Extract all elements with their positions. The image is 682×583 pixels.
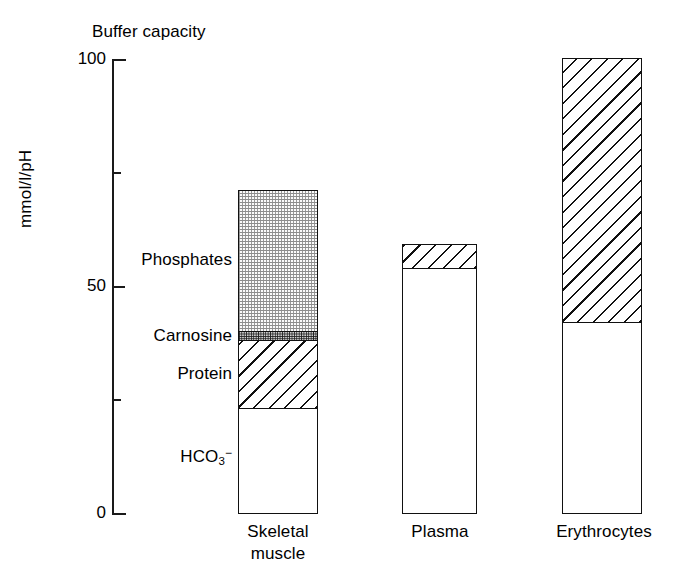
annotation-bicarbonate-formula: HCO [180, 447, 218, 466]
annotation-bicarbonate: HCO3− [116, 446, 232, 467]
bar-segment-protein-erythrocytes [562, 58, 642, 323]
bar-segment-phosphates-skeletal-muscle [238, 190, 318, 332]
buffer-capacity-chart: Buffer capacity mmol/l/pH 100 50 0 Phosp [0, 0, 682, 583]
y-tick-label-100: 100 [36, 49, 106, 69]
category-label-skeletal-muscle: Skeletal muscle [218, 521, 338, 565]
chart-title: Buffer capacity [92, 22, 206, 42]
y-axis-tick-100 [112, 59, 126, 61]
bar-segment-bicarbonate-skeletal-muscle [238, 408, 318, 514]
annotation-bicarbonate-superscript: − [225, 446, 232, 460]
category-label-plasma: Plasma [380, 521, 500, 543]
bar-segment-protein-skeletal-muscle [238, 340, 318, 409]
bar-segment-protein-plasma [402, 244, 477, 269]
category-label-erythrocytes: Erythrocytes [542, 521, 666, 543]
y-axis-tick-0 [112, 513, 126, 515]
bar-plasma [402, 244, 477, 514]
annotation-carnosine: Carnosine [116, 326, 232, 346]
y-axis-minor-tick-75 [112, 172, 121, 174]
bar-segment-bicarbonate-erythrocytes [562, 322, 642, 514]
bar-segment-bicarbonate-plasma [402, 268, 477, 514]
y-tick-label-0: 0 [36, 503, 106, 523]
bar-skeletal-muscle [238, 190, 318, 514]
y-axis-label: mmol/l/pH [16, 108, 36, 228]
y-tick-label-50: 50 [36, 276, 106, 296]
bar-erythrocytes [562, 58, 642, 514]
annotation-phosphates: Phosphates [116, 250, 232, 270]
y-axis-minor-tick-25 [112, 399, 121, 401]
y-axis-tick-50 [112, 286, 125, 288]
annotation-protein: Protein [116, 364, 232, 384]
